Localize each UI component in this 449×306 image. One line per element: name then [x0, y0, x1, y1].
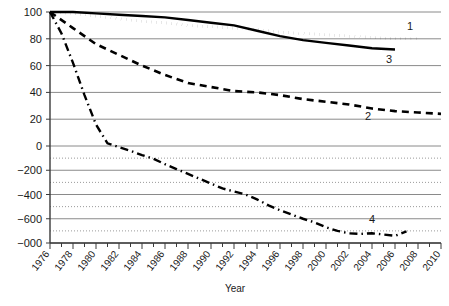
- x-tick-label: 1994: [236, 248, 259, 273]
- x-tick-label: 1998: [282, 248, 305, 273]
- x-tick-label: 2010: [420, 248, 443, 273]
- x-tick-label: 1984: [121, 248, 144, 273]
- y-tick-label: 40: [30, 86, 42, 98]
- data-series-group: [50, 12, 441, 236]
- x-tick-label: 1976: [29, 248, 52, 273]
- y-tick-label: −200: [17, 164, 42, 176]
- y-tick-label: 60: [30, 60, 42, 72]
- line-chart: 100806040200−200−400−600−000 19761978198…: [0, 0, 449, 306]
- series-label-2: 2: [365, 110, 371, 122]
- x-tick-label: 1992: [213, 248, 236, 273]
- x-axis-tick-labels: 1976197819801982198419861988199019921994…: [29, 248, 443, 273]
- x-tick-label: 1990: [190, 248, 213, 273]
- gridlines-major: [50, 12, 441, 243]
- y-tick-label: 0: [36, 140, 42, 152]
- x-tick-label: 2006: [374, 248, 397, 273]
- chart-canvas: 100806040200−200−400−600−000 19761978198…: [0, 0, 449, 306]
- x-tick-label: 1986: [144, 248, 167, 273]
- y-tick-label: 100: [24, 6, 42, 18]
- x-tick-label: 1996: [259, 248, 282, 273]
- x-tick-label: 2008: [397, 248, 420, 273]
- series-line-3: [50, 12, 395, 50]
- y-tick-label: −000: [17, 237, 42, 249]
- y-tick-label: 80: [30, 33, 42, 45]
- x-tick-label: 1978: [52, 248, 75, 273]
- x-tick-label: 2002: [328, 248, 351, 273]
- series-label-3: 3: [386, 53, 392, 65]
- y-tick-label: −400: [17, 189, 42, 201]
- x-tick-label: 1988: [167, 248, 190, 273]
- y-tick-label: 20: [30, 113, 42, 125]
- y-axis-tick-labels: 100806040200−200−400−600−000: [17, 6, 42, 249]
- x-tick-label: 1982: [98, 248, 121, 273]
- x-tick-label: 2004: [351, 248, 374, 273]
- series-label-1: 1: [407, 20, 413, 32]
- y-axis: [46, 12, 50, 243]
- y-tick-label: −600: [17, 213, 42, 225]
- x-tick-label: 2000: [305, 248, 328, 273]
- x-axis: [50, 243, 441, 249]
- x-tick-label: 1980: [75, 248, 98, 273]
- x-axis-title: Year: [225, 283, 246, 294]
- series-label-4: 4: [369, 213, 375, 225]
